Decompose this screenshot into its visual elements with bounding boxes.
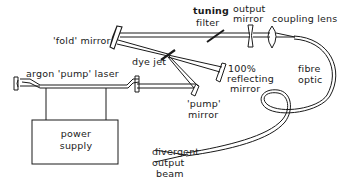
power-supply-label-1: power [54,129,98,139]
fibre-optic [186,36,336,156]
divergent-beam-label-2: output [152,158,185,168]
argon-laser-tube [20,79,139,86]
tuning-filter-icon [207,30,224,42]
tuning-filter-label-2: filter [196,18,219,28]
coupling-lens-label: coupling lens [272,14,338,24]
argon-laser-label: argon 'pump' laser [26,69,119,79]
laser-rear-mirror-icon [14,77,18,90]
divergent-beam-label-1: divergent [152,147,199,157]
fold-mirror-label: 'fold' mirror [53,36,111,46]
output-mirror-label-2: mirror [233,14,263,24]
divergent-beam-label-3: beam [156,169,184,179]
fibre-optic-label-1: fibre [298,64,321,74]
pump-mirror-label-2: mirror [188,110,218,120]
pump-mirror-label-1: 'pump' [187,99,221,109]
power-supply-label-2: supply [54,141,98,151]
fibre-optic-label-2: optic [298,75,322,85]
output-mirror-icon [248,25,253,47]
tuning-filter-label-1: tuning [193,6,229,16]
reflecting-mirror-label-3: mirror [230,84,260,94]
dye-jet-label: dye jet [132,57,166,67]
